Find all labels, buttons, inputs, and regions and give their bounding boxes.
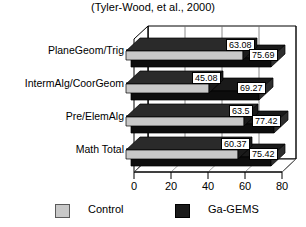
category-label-planegeom-trig: PlaneGeom/Trig [48,44,124,56]
legend-label-control: Control [88,203,123,215]
x-tick-20: 20 [158,180,184,192]
legend-label-ga-gems: Ga-GEMS [208,203,259,215]
chart-legend: Control Ga-GEMS [0,202,306,224]
value-label-preelemalg-control: 63.5 [229,105,253,117]
category-label-pre-elemalg: Pre/ElemAlg [66,110,124,122]
category-label-intermalg-coorgeom: IntermAlg/CoorGeom [25,77,124,89]
x-tick-40: 40 [195,180,221,192]
value-label-intermalg-control: 45.08 [192,72,221,84]
x-tick-60: 60 [232,180,258,192]
value-label-planegeom-gagems: 75.69 [249,49,278,61]
value-label-mathtotal-control: 60.37 [221,138,250,150]
value-label-preelemalg-gagems: 77.42 [252,115,281,127]
value-label-intermalg-gagems: 69.27 [237,82,266,94]
plot-area: PlaneGeom/Trig IntermAlg/CoorGeom Pre/El… [0,0,306,227]
control-swatch [55,204,70,218]
chart-figure: (Tyler-Wood, et al., 2000) [0,0,306,227]
x-tick-80: 80 [269,180,295,192]
ga-gems-swatch [175,204,190,218]
bars-layer [0,0,306,227]
x-tick-0: 0 [121,180,147,192]
value-label-mathtotal-gagems: 75.42 [249,148,278,160]
category-label-math-total: Math Total [76,143,124,155]
